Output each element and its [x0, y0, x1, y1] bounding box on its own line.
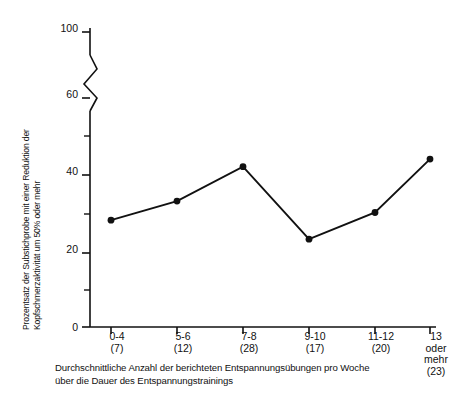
data-point-6 — [427, 156, 434, 163]
y-tick-label-40: 40 — [52, 166, 78, 177]
x-axis-title-line-2: über die Dauer des Entspannungstrainings — [55, 375, 405, 388]
x-axis-title-line-1: Durchschnittliche Anzahl der berichteten… — [55, 362, 405, 375]
data-point-4 — [306, 236, 313, 243]
figure-container: Prozentsatz der Substichprobe mit einer … — [0, 0, 467, 405]
x-tick-label-3: 7-8 — [241, 330, 256, 342]
x-tick-count-3: (28) — [240, 342, 259, 354]
y-axis-tick-labels: 100 60 40 20 0 — [48, 28, 78, 328]
y-axis-break-zigzag — [84, 55, 97, 111]
data-point-5 — [372, 209, 379, 216]
x-tick-group-4: 9-10 (17) — [284, 331, 346, 354]
data-point-2 — [174, 198, 181, 205]
data-point-markers — [108, 156, 434, 243]
y-axis-title-line-2: Kopfschmerzaktivität um 50% oder mehr — [33, 181, 42, 330]
x-tick-count-1: (7) — [111, 342, 124, 354]
x-tick-count-2: (12) — [174, 342, 193, 354]
data-point-3 — [240, 163, 247, 170]
chart-svg — [84, 28, 436, 328]
x-tick-count-5: (20) — [372, 342, 391, 354]
x-tick-group-6: 13 oder mehr (23) — [405, 331, 467, 377]
x-tick-group-2: 5-6 (12) — [152, 331, 214, 354]
x-tick-extra-6b: mehr — [424, 353, 448, 365]
x-tick-label-1: 0-4 — [109, 330, 124, 342]
data-point-1 — [108, 217, 115, 224]
y-axis-minor-ticks — [84, 136, 90, 290]
x-tick-label-2: 5-6 — [175, 330, 190, 342]
plot-area — [84, 28, 436, 328]
x-tick-group-5: 11-12 (20) — [350, 331, 412, 354]
x-tick-count-6: (23) — [427, 365, 446, 377]
y-axis-major-ticks — [82, 32, 90, 327]
x-tick-count-4: (17) — [306, 342, 325, 354]
x-tick-extra-6a: oder — [425, 342, 446, 354]
x-axis-title: Durchschnittliche Anzahl der berichteten… — [55, 362, 405, 387]
y-tick-label-60: 60 — [52, 89, 78, 100]
x-tick-label-4: 9-10 — [304, 330, 325, 342]
data-line-series — [111, 159, 430, 239]
y-tick-label-0: 0 — [52, 322, 78, 333]
y-tick-label-100: 100 — [52, 23, 78, 34]
x-tick-group-1: 0-4 (7) — [86, 331, 148, 354]
x-tick-group-3: 7-8 (28) — [218, 331, 280, 354]
x-tick-label-5: 11-12 — [368, 330, 394, 342]
x-tick-label-6: 13 — [430, 330, 442, 342]
y-tick-label-20: 20 — [52, 244, 78, 255]
y-axis-title-line-1: Prozentsatz der Substichprobe mit einer … — [22, 129, 31, 330]
